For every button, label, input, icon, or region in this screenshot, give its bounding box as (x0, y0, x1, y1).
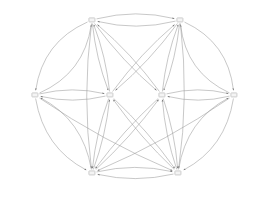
graph-node[interactable] (176, 17, 183, 22)
graph-edge (36, 22, 88, 90)
edge-layer (0, 0, 273, 200)
graph-node[interactable] (106, 92, 113, 97)
graph-edge (162, 25, 178, 92)
graph-edge (96, 100, 159, 170)
graph-edge (36, 99, 87, 171)
graph-node[interactable] (88, 170, 95, 175)
graph-edge (113, 25, 175, 92)
graph-edge (97, 14, 175, 19)
graph-node[interactable] (174, 170, 181, 175)
graph-edge (179, 98, 229, 170)
graph-edge (40, 90, 105, 94)
graph-edge (184, 99, 234, 171)
graph-edge (98, 21, 176, 26)
graph-edge (87, 24, 92, 169)
graph-edge (40, 25, 92, 93)
graph-edge (162, 100, 176, 170)
graph-edge (97, 167, 173, 172)
graph-edge (98, 98, 230, 170)
graph-edge (164, 24, 180, 91)
graph-edge (41, 98, 92, 170)
graph-edge (41, 96, 106, 100)
graph-edge (98, 174, 174, 179)
graph-node[interactable] (230, 92, 237, 97)
graph-node[interactable] (31, 92, 38, 97)
graph-edge (98, 25, 160, 92)
graph-edge (92, 24, 108, 91)
graph-edge (92, 99, 108, 169)
graph-edge (179, 24, 185, 169)
graph-edge (167, 90, 229, 94)
graph-node[interactable] (158, 92, 165, 97)
preference-relation-graph (0, 0, 273, 200)
graph-node[interactable] (88, 17, 95, 22)
graph-edge (163, 99, 177, 169)
graph-edge (94, 25, 110, 92)
graph-edge (168, 96, 230, 100)
